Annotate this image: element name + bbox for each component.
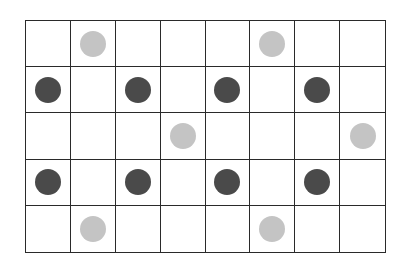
- grid-cell: [116, 21, 161, 67]
- light-circle-icon: [350, 123, 376, 149]
- dark-circle-icon: [35, 77, 61, 103]
- grid-cell: [295, 160, 340, 206]
- grid-cell: [116, 67, 161, 113]
- grid-cell: [250, 113, 295, 159]
- dark-circle-icon: [304, 77, 330, 103]
- grid-cell: [71, 113, 116, 159]
- grid-cell: [161, 113, 206, 159]
- dot-grid-diagram: [25, 20, 386, 253]
- grid-cell: [250, 67, 295, 113]
- grid-cell: [340, 160, 385, 206]
- grid-cell: [295, 206, 340, 252]
- grid-cell: [71, 206, 116, 252]
- grid-cell: [250, 21, 295, 67]
- grid-cell: [26, 113, 71, 159]
- grid-cell: [116, 160, 161, 206]
- grid-cell: [206, 67, 251, 113]
- grid-cell: [161, 160, 206, 206]
- grid-cell: [161, 67, 206, 113]
- grid-cell: [71, 67, 116, 113]
- grid-cell: [26, 160, 71, 206]
- grid-cell: [295, 21, 340, 67]
- grid-cell: [295, 113, 340, 159]
- dark-circle-icon: [214, 169, 240, 195]
- light-circle-icon: [259, 216, 285, 242]
- grid-cell: [340, 206, 385, 252]
- dark-circle-icon: [35, 169, 61, 195]
- grid-cell: [71, 21, 116, 67]
- grid-cell: [206, 160, 251, 206]
- light-circle-icon: [259, 31, 285, 57]
- light-circle-icon: [80, 216, 106, 242]
- grid-cell: [206, 21, 251, 67]
- grid-cell: [161, 206, 206, 252]
- grid-cell: [116, 113, 161, 159]
- grid-cell: [250, 206, 295, 252]
- light-circle-icon: [80, 31, 106, 57]
- grid-cell: [26, 67, 71, 113]
- grid-cell: [340, 67, 385, 113]
- dark-circle-icon: [125, 169, 151, 195]
- grid-cell: [340, 21, 385, 67]
- grid-cell: [206, 113, 251, 159]
- grid-cell: [26, 206, 71, 252]
- grid-cell: [71, 160, 116, 206]
- grid-cell: [26, 21, 71, 67]
- grid-cell: [116, 206, 161, 252]
- grid-cell: [295, 67, 340, 113]
- grid-cell: [340, 113, 385, 159]
- light-circle-icon: [170, 123, 196, 149]
- grid-cell: [161, 21, 206, 67]
- dark-circle-icon: [125, 77, 151, 103]
- grid-cell: [250, 160, 295, 206]
- dark-circle-icon: [304, 169, 330, 195]
- dark-circle-icon: [214, 77, 240, 103]
- grid-cell: [206, 206, 251, 252]
